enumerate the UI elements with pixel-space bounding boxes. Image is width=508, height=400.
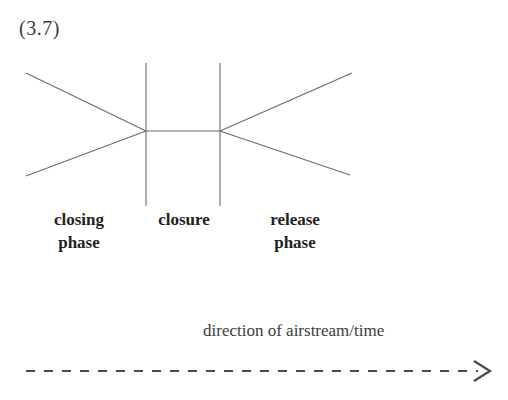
airstream-direction-caption: direction of airstream/time	[203, 321, 384, 341]
figure-page: (3.7) closing phase closure release phas…	[0, 0, 508, 400]
stricture-lines	[26, 73, 352, 176]
label-release-phase: release phase	[246, 209, 344, 255]
lower-left-approach-line	[26, 131, 146, 176]
upper-left-approach-line	[26, 73, 146, 131]
airstream-arrow	[26, 361, 490, 381]
upper-right-release-line	[220, 73, 352, 131]
label-closure: closure	[146, 209, 222, 232]
phase-boundary-lines	[146, 63, 220, 206]
label-closing-phase: closing phase	[30, 209, 128, 255]
lower-right-release-line	[220, 131, 350, 175]
